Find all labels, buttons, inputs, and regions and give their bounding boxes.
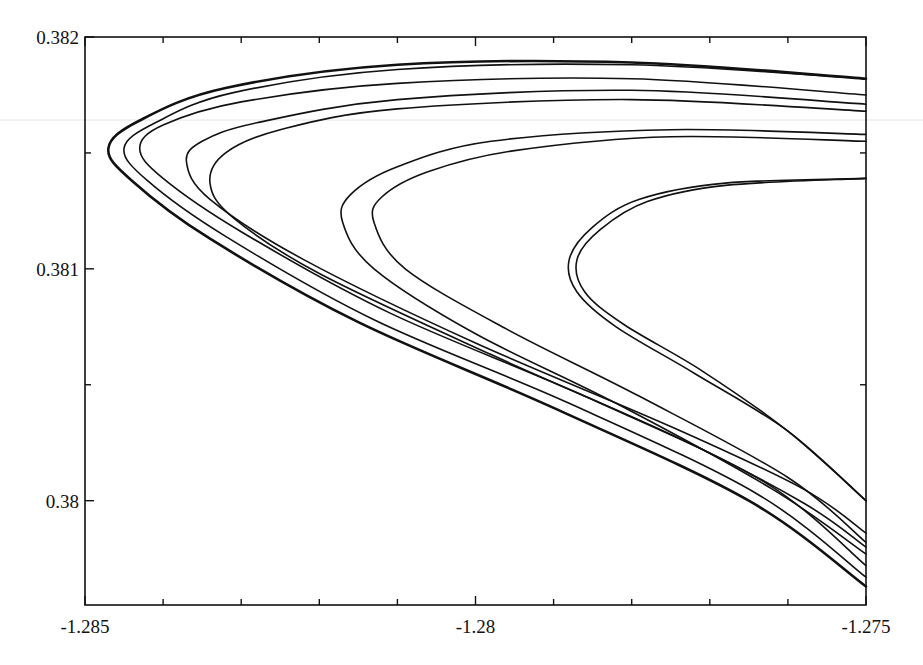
y-tick-label: 0.38 [46,491,79,512]
y-tick-label: 0.382 [36,27,79,48]
curve-9 [576,178,866,500]
curve-3 [140,78,866,566]
y-axis-tick-labels: 0.3820.3810.38 [36,27,79,512]
x-tick-label: -1.275 [841,616,890,637]
x-axis-ticks [85,37,866,605]
curve-4 [186,90,866,533]
x-axis-tick-labels: -1.285-1.28-1.275 [60,616,890,637]
curve-7 [372,136,866,542]
y-tick-label: 0.381 [36,259,79,280]
y-axis-ticks [85,37,866,501]
chart-canvas: -1.285-1.28-1.275 0.3820.3810.38 [0,0,923,665]
curve-1 [108,61,866,586]
curve-group [108,61,866,586]
curve-5 [210,100,866,547]
curve-8 [568,178,866,500]
curve-6 [341,130,866,554]
x-tick-label: -1.285 [60,616,109,637]
x-tick-label: -1.28 [456,616,496,637]
plot-frame [85,37,866,605]
